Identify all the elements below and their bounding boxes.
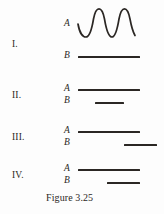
row-2-signal-b-label: B (64, 95, 70, 105)
row-2-signal-a-label: A (64, 83, 70, 93)
row-1-signal-a-wave (78, 8, 140, 38)
row-numeral-1: I. (12, 39, 18, 49)
row-4-signal-b-label: B (64, 175, 70, 185)
row-1-signal-a-label: A (64, 18, 70, 28)
row-1-signal-b-label: B (64, 50, 70, 60)
row-2-signal-a-line (78, 89, 140, 91)
row-numeral-4: IV. (12, 170, 24, 180)
row-1-signal-b-line (78, 56, 140, 58)
row-3-signal-b-line (124, 144, 157, 146)
row-4-signal-a-label: A (64, 163, 70, 173)
row-4-signal-a-line (78, 169, 140, 171)
row-4-signal-b-line (107, 182, 140, 184)
row-3-signal-a-label: A (64, 125, 70, 135)
figure-3-25: I. A B II. A B III. A B IV. A B Figure 3… (0, 0, 164, 214)
row-2-signal-b-line (95, 102, 124, 104)
row-3-signal-a-line (78, 131, 140, 133)
row-numeral-3: III. (12, 132, 25, 142)
figure-caption: Figure 3.25 (46, 192, 93, 204)
row-3-signal-b-label: B (64, 137, 70, 147)
row-numeral-2: II. (12, 90, 21, 100)
